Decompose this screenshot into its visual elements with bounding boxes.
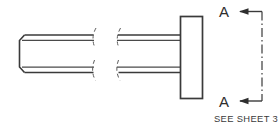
break-line-left-upper — [93, 28, 96, 47]
section-cutting-plane-a-a: A A SEE SHEET 3 — [214, 3, 278, 124]
break-line-left-lower — [93, 60, 96, 81]
section-arrow-head-top — [239, 8, 249, 14]
right-shaft-segment — [117, 35, 181, 73]
engineering-drawing-canvas: A A SEE SHEET 3 — [0, 0, 278, 131]
section-arrow-head-bottom — [239, 98, 249, 104]
see-sheet-note: SEE SHEET 3 — [214, 113, 278, 124]
end-flange-rectangle — [181, 17, 203, 99]
section-letter-top: A — [219, 3, 229, 20]
section-letter-bottom: A — [219, 93, 229, 110]
break-line-right-lower — [117, 60, 120, 81]
left-shaft-segment — [20, 35, 95, 73]
break-line-right-upper — [117, 28, 120, 47]
drawing-svg-root: A A SEE SHEET 3 — [0, 0, 278, 131]
conventional-break-symbol — [93, 28, 121, 81]
